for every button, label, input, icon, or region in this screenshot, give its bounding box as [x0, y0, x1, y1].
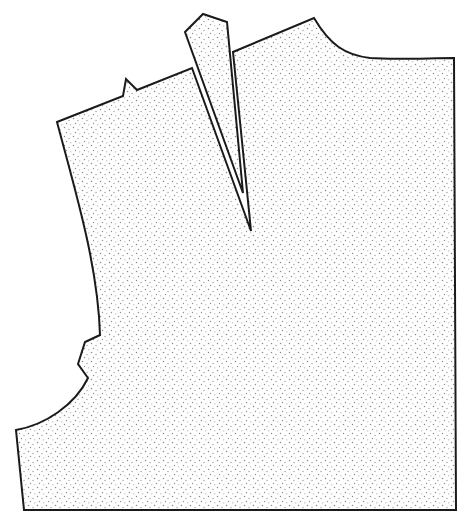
- pattern-diagram: [0, 0, 467, 517]
- pattern-svg: [0, 0, 467, 517]
- bodice-body-piece: [16, 18, 456, 510]
